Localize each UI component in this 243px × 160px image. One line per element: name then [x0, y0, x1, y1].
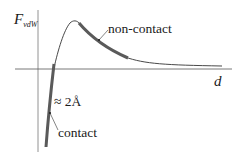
contact-label: contact [58, 126, 97, 140]
non-contact-label: non-contact [108, 22, 172, 36]
non-contact-leader-dot [98, 39, 100, 41]
contact-region-highlight [46, 64, 54, 147]
contact-leader-dot [49, 112, 51, 114]
x-axis-label: d [214, 74, 222, 89]
non-contact-leader-line [99, 30, 108, 40]
y-axis-subscript: vdW [23, 20, 37, 29]
y-axis-symbol: F [14, 11, 23, 27]
y-axis-label: FvdW [14, 12, 37, 29]
contact-leader-line [50, 113, 58, 130]
distance-label: ≈ 2Å [54, 95, 81, 109]
